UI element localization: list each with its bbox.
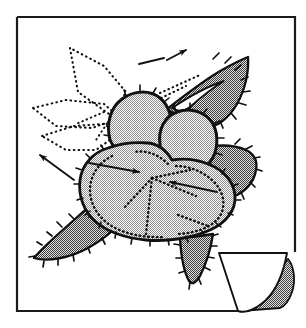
figure-root	[0, 0, 306, 328]
flower-illustration	[0, 0, 306, 328]
